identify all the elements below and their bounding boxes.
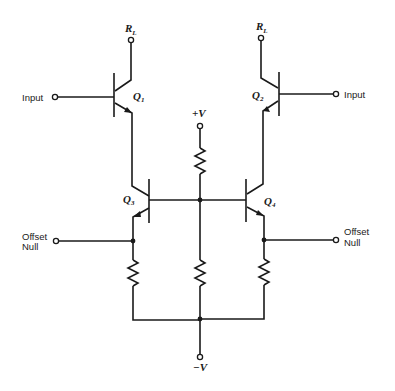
offset-null-right-label-line1: Offset: [344, 226, 370, 237]
q2-emitter-to-q4-collector: [247, 101, 278, 194]
circuit-diagram: RL RL Input Input Q1 Q2 Q3 Q4 +V −V Offs…: [0, 0, 395, 391]
q1-label: Q1: [133, 90, 144, 104]
q1-emitter-to-q3-collector: [115, 103, 149, 196]
q4-emitter: [247, 207, 264, 240]
right-bottom-wire: [200, 285, 264, 319]
q3-emitter: [133, 208, 149, 241]
input-left-terminal[interactable]: [52, 94, 57, 99]
input-left-label: Input: [22, 92, 43, 103]
offset-null-left-label-line2: Null: [22, 241, 38, 252]
junction-base-tie: [198, 198, 203, 203]
left-bottom-wire: [133, 286, 200, 320]
q3-emitter-arrow: [133, 211, 141, 217]
junction-bottom: [198, 317, 203, 322]
rl-right-label: RL: [255, 20, 268, 35]
vplus-terminal: [197, 123, 202, 128]
q4-emitter-arrow: [256, 210, 264, 216]
offset-null-right-terminal[interactable]: [333, 237, 338, 242]
q1-emitter-arrow: [124, 107, 132, 113]
resistor-top-center: [195, 148, 205, 174]
vminus-terminal: [197, 354, 202, 359]
transistor-q2: [247, 35, 339, 194]
q4-label: Q4: [264, 195, 276, 209]
input-right-terminal[interactable]: [333, 91, 338, 96]
q3-label: Q3: [123, 193, 135, 207]
resistor-bottom-center: [195, 260, 205, 286]
q2-label: Q2: [252, 89, 264, 103]
q1-collector: [115, 43, 131, 91]
offset-null-right-label-line2: Null: [344, 237, 360, 248]
rl-left-label: RL: [124, 22, 137, 37]
q2-collector: [261, 41, 278, 88]
vminus-label: −V: [193, 361, 209, 373]
vplus-label: +V: [192, 107, 207, 119]
rl-left-terminal: [128, 37, 133, 42]
resistor-emitter-q3: [128, 260, 138, 286]
transistor-q1: [52, 37, 149, 196]
input-right-label: Input: [344, 89, 365, 100]
offset-null-left-terminal[interactable]: [53, 238, 58, 243]
resistor-emitter-q4: [259, 259, 269, 285]
rl-right-terminal: [258, 35, 263, 40]
